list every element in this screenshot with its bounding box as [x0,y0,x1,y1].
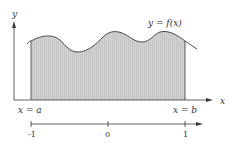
right-bound-label: x = b [173,105,197,115]
tick-label-one: 1 [183,130,188,139]
tick-label-minus-one: -1 [28,130,36,139]
x-axis-label: x [220,96,225,106]
lower-axis-arrow-icon [196,122,203,126]
y-axis-arrow-icon [12,21,16,28]
y-axis-label: y [11,9,18,19]
shaded-area [31,31,185,100]
x-axis-arrow-icon [206,98,213,102]
tick-label-zero: 0 [105,130,110,139]
left-bound-label: x = a [18,105,42,115]
curve-label: y = f(x) [147,18,182,28]
area-under-curve-diagram: y x y = f(x) x = a x = b -1 0 1 [0,0,238,148]
